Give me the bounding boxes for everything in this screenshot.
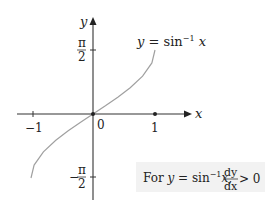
note-text: For y = sin−1x, [143, 170, 232, 185]
y-tick-label-neg-pi-den: 2 [78, 177, 86, 191]
x-tick-label-neg1: −1 [25, 121, 43, 135]
x-one-point [153, 112, 157, 116]
note-frac-den: dx [224, 180, 238, 193]
y-axis-label: y [79, 14, 88, 29]
y-tick-label-pi-den: 2 [78, 50, 86, 64]
note-frac-num: dy [224, 166, 238, 179]
y-tick-label-neg-pi-num: π [78, 163, 86, 177]
function-label: y = sin−1 x [136, 34, 207, 49]
y-axis-arrow-icon [90, 17, 97, 25]
note-relation: > 0 [239, 172, 261, 186]
x-tick-label-1: 1 [151, 121, 159, 135]
origin-point [91, 112, 95, 116]
x-axis-label: x [195, 106, 203, 121]
origin-label: 0 [97, 118, 105, 132]
y-tick-label-pi-num: π [78, 36, 86, 50]
graph-canvas: y x −1 1 0 π 2 − π 2 y = sin−1 x For y =… [0, 0, 265, 201]
x-axis-arrow-icon [184, 111, 192, 118]
